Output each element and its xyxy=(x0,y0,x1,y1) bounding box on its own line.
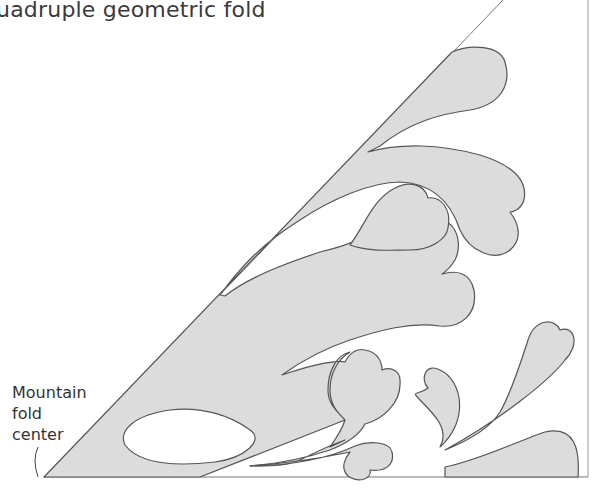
cutout-heart-lower-right xyxy=(415,368,459,447)
cutout-heart-upper-middle xyxy=(350,184,449,250)
fold-pointer-arc xyxy=(35,447,38,477)
cutout-lobe-bottom-right xyxy=(445,431,578,477)
fold-pattern-diagram xyxy=(0,0,599,496)
